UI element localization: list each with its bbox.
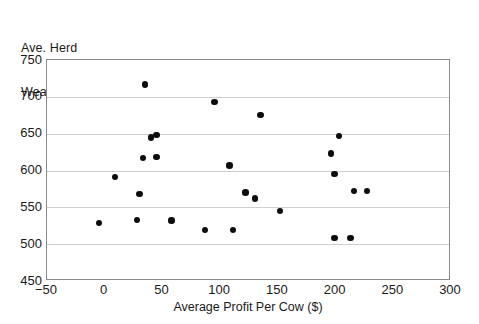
y-tick-label-750: 750 xyxy=(2,53,42,66)
y-tick-label-600: 600 xyxy=(2,163,42,176)
data-point xyxy=(226,162,232,168)
data-point xyxy=(136,191,142,197)
x-tick-label-300: 300 xyxy=(420,283,479,296)
data-point xyxy=(364,188,370,194)
data-point xyxy=(153,132,159,138)
data-point xyxy=(134,217,140,223)
data-point xyxy=(336,133,342,139)
data-point xyxy=(230,227,236,233)
data-point xyxy=(328,150,334,156)
x-tick-label-0: 0 xyxy=(74,283,134,296)
data-point xyxy=(112,174,118,180)
data-point xyxy=(202,227,208,233)
gridline-y-500 xyxy=(47,244,449,245)
plot-area xyxy=(46,59,450,280)
data-point xyxy=(142,81,148,87)
x-axis-tick-labels: −50050100150200250300 xyxy=(46,283,450,301)
x-tick-label-250: 250 xyxy=(362,283,422,296)
x-tick-label--50: −50 xyxy=(16,283,76,296)
data-point xyxy=(153,154,159,160)
data-point xyxy=(242,189,248,195)
data-point xyxy=(331,235,337,241)
scatter-plot-figure: Ave. Herd Weaning Wt. (lb) 4505005506006… xyxy=(0,0,479,324)
gridline-y-650 xyxy=(47,134,449,135)
y-axis-tick-labels: 450500550600650700750 xyxy=(0,59,42,280)
gridline-y-700 xyxy=(47,97,449,98)
gridline-y-550 xyxy=(47,207,449,208)
y-tick-label-700: 700 xyxy=(2,89,42,102)
data-point xyxy=(277,208,283,214)
gridline-y-600 xyxy=(47,171,449,172)
y-tick-label-500: 500 xyxy=(2,237,42,250)
data-point xyxy=(96,220,102,226)
data-point xyxy=(347,235,353,241)
x-axis-label: Average Profit Per Cow ($) xyxy=(46,300,450,314)
data-point xyxy=(140,155,146,161)
data-point xyxy=(351,188,357,194)
data-point xyxy=(331,171,337,177)
data-point xyxy=(168,217,174,223)
x-tick-label-150: 150 xyxy=(247,283,307,296)
x-tick-label-200: 200 xyxy=(305,283,365,296)
data-point xyxy=(211,99,217,105)
x-tick-label-50: 50 xyxy=(131,283,191,296)
data-point xyxy=(252,195,258,201)
y-tick-label-650: 650 xyxy=(2,126,42,139)
data-point xyxy=(257,112,263,118)
y-tick-label-550: 550 xyxy=(2,200,42,213)
x-tick-label-100: 100 xyxy=(189,283,249,296)
